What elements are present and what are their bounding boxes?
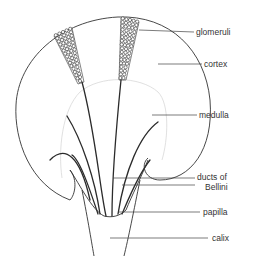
label-glomeruli: glomeruli	[196, 27, 231, 37]
glomeruli-center	[119, 17, 139, 80]
label-ducts-of: ducts of	[197, 172, 227, 182]
label-medulla: medulla	[199, 110, 229, 120]
duct	[118, 122, 158, 214]
kidney-diagram: glomeruli cortex medulla ducts of Bellin…	[0, 0, 255, 274]
label-calix: calix	[212, 233, 230, 243]
label-bellini: Bellini	[205, 182, 228, 192]
duct	[112, 80, 121, 216]
leader-glomeruli	[139, 30, 194, 32]
calix-wall-left	[82, 190, 94, 256]
label-papilla: papilla	[203, 207, 228, 217]
label-cortex: cortex	[204, 59, 228, 69]
